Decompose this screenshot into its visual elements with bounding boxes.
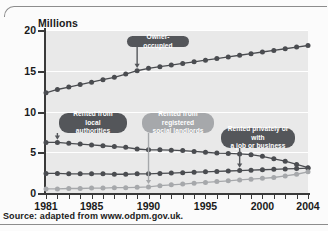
callout-owner-occupied: Owner-occupied: [127, 36, 189, 47]
figure-root: Millions 05101520 1981198519901995200020…: [0, 0, 328, 231]
callout-arrow-head: [146, 180, 151, 184]
callout-arrow-head: [135, 64, 140, 68]
callout-rented-registered-social-landlords: Rented from registered social landlords: [142, 113, 214, 133]
line-chart: Millions 05101520 1981198519901995200020…: [0, 0, 328, 231]
callout-rented-local-authorities: Rented from local authorities: [59, 113, 127, 133]
source-note: Source: adapted from www.odpm.gov.uk.: [3, 211, 183, 221]
callout-arrow-head: [237, 164, 242, 168]
callout-arrow-head: [55, 135, 60, 139]
callout-rented-privately-or-job: Rented privately or with a job or busine…: [221, 128, 295, 148]
